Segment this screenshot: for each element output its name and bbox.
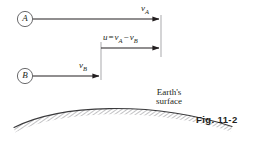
vector-label-u-term2-subscript: B	[134, 37, 138, 44]
vector-label-u-symbol: u	[103, 32, 108, 42]
vector-label-vb-subscript: B	[83, 65, 87, 72]
vector-label-u-minus: −	[123, 32, 130, 42]
node-label-a: A	[18, 13, 32, 23]
vector-label-u-term1-subscript: A	[119, 37, 123, 44]
vector-label-va-subscript: A	[145, 8, 149, 15]
node-label-b: B	[18, 70, 32, 80]
vector-label-va: vA	[141, 4, 149, 16]
figure-11-2: A B vA u=vA−vB vB Earth's surface Fig. 1…	[0, 0, 254, 147]
vector-label-u-equals: =	[108, 32, 115, 42]
earth-surface-label: Earth's surface	[141, 88, 197, 107]
vector-label-u: u=vA−vB	[103, 33, 138, 45]
earth-surface-label-line2: surface	[141, 97, 197, 106]
figure-caption: Fig. 11-2	[196, 115, 238, 125]
vector-label-vb: vB	[79, 61, 87, 73]
